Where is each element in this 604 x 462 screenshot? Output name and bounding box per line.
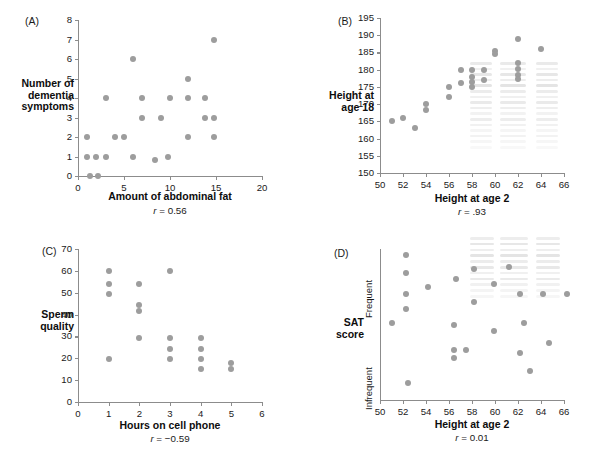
y-tick [377,139,381,140]
data-point [228,366,234,372]
data-point [185,76,191,82]
artifact-band [500,90,526,93]
data-point [112,134,118,140]
data-point [198,335,204,341]
x-tick [109,402,110,406]
y-tick [75,271,79,272]
x-tick [139,402,140,406]
data-point [540,291,546,297]
x-tick [518,400,519,404]
y-tick [377,104,381,105]
x-tick [495,173,496,177]
y-tick [377,70,381,71]
data-point [389,320,395,326]
artifact-band [470,295,494,298]
x-tick [426,400,427,404]
artifact-band [470,118,492,121]
data-point [515,60,521,66]
x-tick-label: 50 [375,406,386,417]
y-tick [75,336,79,337]
data-point [185,95,191,101]
y-tick [377,35,381,36]
artifact-band [470,243,494,246]
x-tick [170,402,171,406]
artifact-band [500,278,528,281]
data-point [228,360,234,366]
artifact-band [536,260,560,263]
panel-b: (B) Height at age 18 5052545658606264661… [302,0,604,231]
artifact-band [536,243,560,246]
data-point [403,291,409,297]
panel-a-y-axis [78,20,79,177]
panel-d-y-axis [380,249,381,401]
y-tick-label: 0 [42,396,72,407]
data-point [425,284,431,290]
y-tick-label: 60 [42,265,72,276]
artifact-band [470,135,492,138]
artifact-band [470,237,494,240]
artifact-band [536,73,558,76]
x-tick [231,402,232,406]
artifact-band [500,68,526,71]
x-tick [472,400,473,404]
y-tick [377,121,381,122]
data-point [185,134,191,140]
data-point [106,281,112,287]
x-tick [472,173,473,177]
artifact-band [536,84,558,87]
artifact-band [536,135,558,138]
data-point [121,134,127,140]
x-tick [78,176,79,180]
data-point [538,46,544,52]
data-point [136,281,142,287]
artifact-band [470,124,492,127]
data-point [139,115,145,121]
data-point [95,173,101,179]
data-point [130,154,136,160]
panel-b-x-axis-title: Height at age 2 [435,192,510,204]
y-tick [75,380,79,381]
data-point [198,346,204,352]
data-point [458,80,464,86]
y-tick-label: 185 [344,46,374,57]
y-tick-label: 165 [344,115,374,126]
artifact-band [500,124,526,127]
y-tick-label: 70 [42,243,72,254]
artifact-band [470,62,492,65]
y-tick [75,98,79,99]
data-point [403,306,409,312]
artifact-band [536,107,558,110]
x-tick-label: 20 [257,182,268,193]
y-tick-label: 6 [42,53,72,64]
y-tick [75,59,79,60]
data-point [400,115,406,121]
panel-b-y-axis [380,18,381,174]
artifact-band [536,289,560,292]
artifact-band [500,254,528,257]
artifact-band [500,266,528,269]
artifact-band [536,90,558,93]
artifact-band [470,249,494,252]
artifact-band [536,96,558,99]
artifact-band [536,254,560,257]
panel-a: (A) Number of dementia symptoms 05101520… [0,0,302,231]
artifact-band [536,249,560,252]
artifact-band [500,79,526,82]
y-tick [377,52,381,53]
data-point [492,51,498,57]
artifact-band [470,254,494,257]
data-point [202,115,208,121]
data-point [211,134,217,140]
x-tick-label: 66 [559,179,570,190]
data-point [130,56,136,62]
y-tick-label: 1 [42,151,72,162]
x-tick [564,173,565,177]
y-tick-label: 160 [344,133,374,144]
data-point [515,36,521,42]
x-tick-label: 60 [490,179,501,190]
y-tick-label: 20 [42,352,72,363]
x-tick [216,176,217,180]
data-point [564,291,570,297]
x-tick-label: 50 [375,179,386,190]
figure-panels: (A) Number of dementia symptoms 05101520… [0,0,604,462]
